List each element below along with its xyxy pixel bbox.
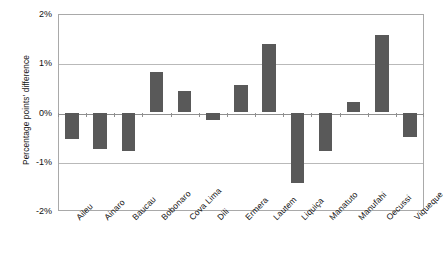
plot-area xyxy=(58,14,424,211)
gridline xyxy=(59,163,423,164)
y-tick-label: -1% xyxy=(6,157,52,167)
gridline xyxy=(59,64,423,65)
y-tick-label: 0% xyxy=(6,108,52,118)
y-axis-tick-labels: 2%1%0%-1%-2% xyxy=(0,14,52,211)
y-tick-label: 2% xyxy=(6,9,52,19)
x-axis-tick-labels: AileuAinaroBaucauBobonaroCova LimaDiliEr… xyxy=(58,212,424,278)
zero-axis-line xyxy=(59,114,423,115)
y-tick-label: 1% xyxy=(6,58,52,68)
y-tick-label: -2% xyxy=(6,206,52,216)
